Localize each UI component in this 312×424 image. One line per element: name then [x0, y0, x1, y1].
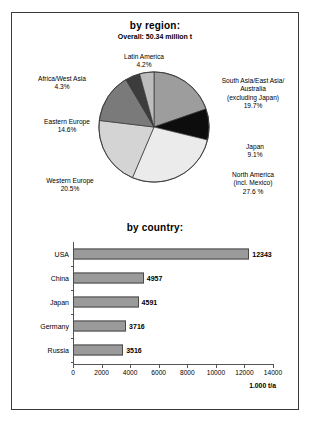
bar-row: China4957 — [73, 266, 273, 290]
pie-label-latin-america-name: Latin America — [104, 53, 184, 61]
bar-row: USA12343 — [73, 242, 273, 266]
pie-chart-subtitle: Overall: 50.34 million t — [12, 33, 298, 40]
bar-category-label: Japan — [50, 299, 69, 306]
bar — [73, 273, 144, 284]
bar-chart-panel: by country: USA12343China4957Japan4591Ge… — [12, 216, 298, 409]
bar — [73, 249, 249, 260]
bar-category-label: China — [51, 275, 69, 282]
x-axis-tick-label: 14000 — [264, 369, 282, 376]
pie-label-eastern-europe: Eastern Europe 14.6% — [18, 118, 116, 135]
bar — [73, 321, 126, 332]
pie-label-north-america: North America (incl. Mexico) 27.6 % — [210, 171, 296, 196]
pie-label-north-america-line1: North America — [210, 171, 296, 179]
pie-label-africa-west-asia-name: Africa/West Asia — [16, 75, 108, 83]
bar-chart-x-ticks: 02000400060008000100001200014000 — [73, 365, 274, 381]
pie-label-western-europe-value: 20.5% — [18, 185, 122, 193]
x-axis-tick-label: 12000 — [235, 369, 253, 376]
x-axis-tick — [273, 365, 274, 368]
x-axis-tick-label: 6000 — [151, 369, 166, 376]
bar — [73, 345, 123, 356]
bar-category-label: USA — [55, 251, 69, 258]
x-axis-tick — [244, 365, 245, 368]
bar-category-label: Germany — [40, 323, 69, 330]
pie-label-latin-america-value: 4.2% — [104, 61, 184, 69]
bar-value-label: 3716 — [129, 323, 145, 330]
bar-category-label: Russia — [48, 347, 69, 354]
bar-value-label: 4957 — [147, 275, 163, 282]
pie-label-eastern-europe-name: Eastern Europe — [18, 118, 116, 126]
y-axis-tick — [71, 362, 74, 363]
pie-label-south-asia: South Asia/East Asia/ Australia (excludi… — [208, 77, 298, 111]
bar-row: Russia3516 — [73, 338, 273, 362]
pie-label-south-asia-line3: (excluding Japan) — [208, 94, 298, 102]
pie-label-south-asia-line1: South Asia/East Asia/ — [208, 77, 298, 85]
pie-label-north-america-value: 27.6 % — [210, 188, 296, 196]
x-axis-tick-label: 4000 — [123, 369, 138, 376]
bar-chart-plot-area: USA12343China4957Japan4591Germany3716Rus… — [73, 242, 273, 362]
pie-chart-title: by region: — [12, 20, 298, 31]
x-axis-tick-label: 2000 — [94, 369, 109, 376]
x-axis-tick — [187, 365, 188, 368]
x-axis-tick-label: 10000 — [207, 369, 225, 376]
pie-label-eastern-europe-value: 14.6% — [18, 126, 116, 134]
pie-label-latin-america: Latin America 4.2% — [104, 53, 184, 70]
bar-row: Germany3716 — [73, 314, 273, 338]
x-axis-tick — [102, 365, 103, 368]
pie-label-africa-west-asia-value: 4.3% — [16, 83, 108, 91]
pie-label-africa-west-asia: Africa/West Asia 4.3% — [16, 75, 108, 92]
x-axis-tick — [73, 365, 74, 368]
pie-label-south-asia-line2: Australia — [208, 85, 298, 93]
x-axis-tick — [216, 365, 217, 368]
bar-chart-unit-label: 1.000 t/a — [249, 382, 276, 389]
bar-chart-title: by country: — [12, 222, 298, 233]
figure-frame: by region: Overall: 50.34 million t Lati… — [11, 12, 299, 410]
pie-label-japan-value: 9.1% — [220, 151, 290, 159]
x-axis-tick-label: 0 — [71, 369, 75, 376]
x-axis-tick-label: 8000 — [180, 369, 195, 376]
bar-row: Japan4591 — [73, 290, 273, 314]
pie-label-japan-name: Japan — [220, 143, 290, 151]
pie-label-western-europe-name: Western Europe — [18, 177, 122, 185]
pie-label-north-america-line2: (incl. Mexico) — [210, 179, 296, 187]
x-axis-tick — [130, 365, 131, 368]
x-axis-tick — [159, 365, 160, 368]
pie-label-western-europe: Western Europe 20.5% — [18, 177, 122, 194]
bar-value-label: 3516 — [126, 347, 142, 354]
pie-label-south-asia-value: 19.7% — [208, 102, 298, 110]
bar-value-label: 12343 — [252, 251, 271, 258]
bar-value-label: 4591 — [142, 299, 158, 306]
pie-label-japan: Japan 9.1% — [220, 143, 290, 160]
bar — [73, 297, 139, 308]
pie-chart-panel: by region: Overall: 50.34 million t Lati… — [12, 13, 298, 218]
